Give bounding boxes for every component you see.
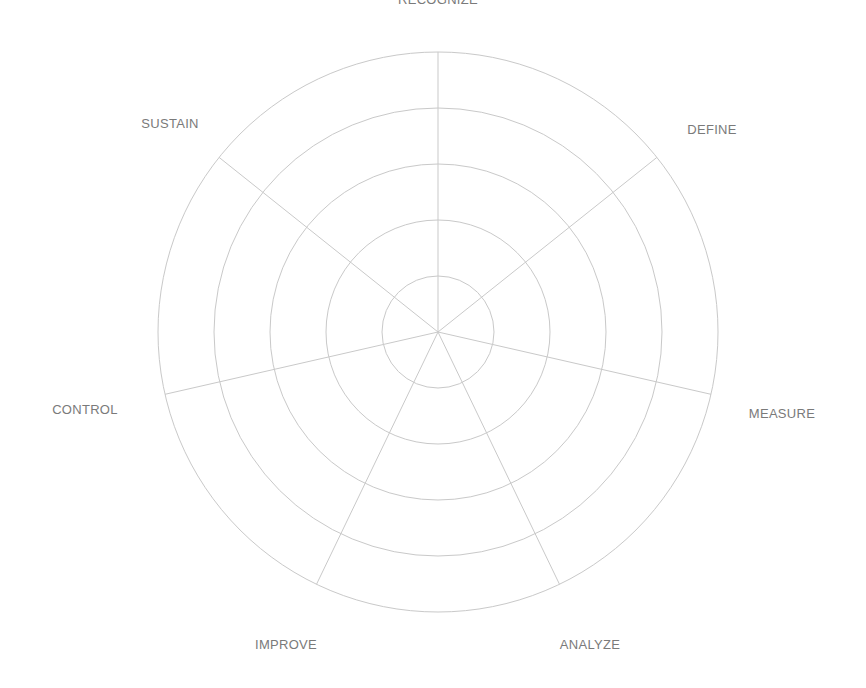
- axis-label-analyze: ANALYZE: [560, 637, 620, 652]
- grid-spoke: [438, 332, 560, 584]
- grid-spoke: [317, 332, 439, 584]
- grid-spoke: [438, 157, 657, 332]
- axis-label-sustain: SUSTAIN: [141, 116, 198, 131]
- axis-label-recognize: RECOGNIZE: [398, 0, 478, 7]
- radar-axis-labels: RECOGNIZE DEFINE MEASURE ANALYZE IMPROVE…: [52, 0, 815, 652]
- axis-label-control: CONTROL: [52, 402, 118, 417]
- axis-label-improve: IMPROVE: [255, 637, 317, 652]
- grid-spoke: [438, 332, 711, 394]
- grid-spoke: [165, 332, 438, 394]
- radar-grid-spokes: [165, 52, 711, 584]
- axis-label-measure: MEASURE: [749, 406, 815, 421]
- radar-chart: RECOGNIZE DEFINE MEASURE ANALYZE IMPROVE…: [0, 0, 866, 688]
- grid-spoke: [219, 157, 438, 332]
- axis-label-define: DEFINE: [687, 122, 736, 137]
